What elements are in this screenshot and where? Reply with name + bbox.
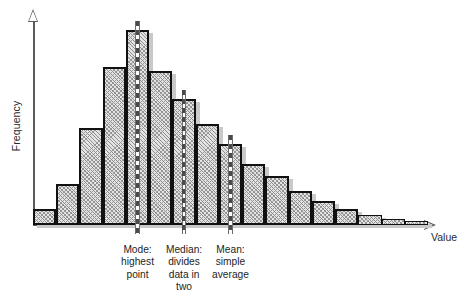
histogram-bar [358, 215, 381, 225]
bar-fill [103, 67, 126, 225]
bar-fill [56, 184, 79, 225]
marker-line-mean [228, 135, 233, 234]
bar-fill [289, 191, 312, 226]
bar-fill [335, 209, 358, 225]
bar-fill [149, 71, 172, 225]
histogram-diagram: Frequency Value Mode: highest point Medi… [0, 0, 472, 304]
bar-fill [312, 201, 335, 225]
histogram-bar [79, 128, 102, 225]
histogram-bar [103, 67, 126, 225]
annotation-median-line4: two [147, 281, 221, 293]
annotation-mean: Mean: simple average [194, 244, 268, 281]
x-axis-label: Value [431, 231, 457, 243]
arrow-up-inner [28, 9, 38, 22]
y-axis-label: Frequency [10, 86, 22, 166]
bar-fill [242, 164, 265, 225]
histogram-bar [265, 176, 288, 225]
histogram-bar [196, 124, 219, 226]
histogram-bar [289, 191, 312, 226]
annotation-mean-line2: simple [194, 256, 268, 268]
histogram-bar [149, 71, 172, 225]
histogram-bar [405, 221, 428, 225]
histogram-bar [312, 201, 335, 225]
histogram-bar [56, 184, 79, 225]
annotation-mean-line3: average [194, 269, 268, 281]
bar-fill [196, 124, 219, 226]
bar-fill [33, 209, 56, 225]
annotation-mean-line1: Mean: [194, 244, 268, 256]
histogram-bar [382, 219, 405, 225]
bar-fill [265, 176, 288, 225]
bar-fill [405, 221, 428, 225]
histogram-bar [242, 164, 265, 225]
bar-fill [79, 128, 102, 225]
histogram-bar [335, 209, 358, 225]
plot-area [33, 22, 428, 225]
bar-fill [358, 215, 381, 225]
histogram-bar [33, 209, 56, 225]
marker-line-mode [135, 21, 140, 234]
marker-line-median [182, 90, 187, 234]
bar-fill [382, 219, 405, 225]
